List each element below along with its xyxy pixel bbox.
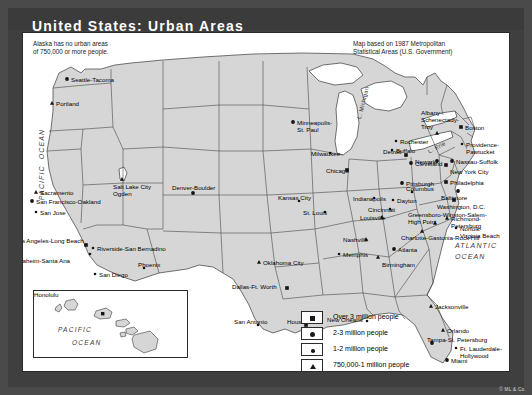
city-marker bbox=[35, 211, 38, 214]
honolulu-marker bbox=[101, 312, 104, 315]
city-marker bbox=[392, 247, 396, 251]
city-marker bbox=[285, 286, 289, 290]
city-marker bbox=[291, 120, 295, 124]
city-label: Memphis bbox=[343, 251, 368, 258]
legend-row: 1-2 million people bbox=[301, 342, 451, 357]
city-marker bbox=[34, 190, 38, 194]
city-marker bbox=[50, 101, 54, 105]
square-icon bbox=[302, 312, 324, 325]
city-label: Dayton bbox=[397, 197, 417, 204]
city-marker bbox=[92, 247, 95, 250]
label-inset-ocean: OCEAN bbox=[72, 339, 101, 346]
city-label: St. Louis bbox=[303, 209, 327, 216]
city-label: Boston bbox=[465, 124, 484, 131]
city-marker bbox=[409, 161, 413, 165]
city-marker bbox=[191, 191, 195, 195]
city-label: Sacramento bbox=[40, 189, 73, 196]
legend: Over 3 million people2-3 million people1… bbox=[301, 310, 451, 372]
map-canvas: Alaska has no urban areas of 750,000 or … bbox=[22, 32, 510, 372]
city-label: Denver-Boulder bbox=[172, 184, 215, 191]
city-label: Providence- Pawtucket bbox=[466, 141, 499, 155]
molokai bbox=[116, 319, 130, 327]
small-dot-icon bbox=[302, 344, 324, 357]
large-dot-icon bbox=[302, 328, 324, 341]
city-marker bbox=[444, 180, 448, 184]
city-label: Phoenix bbox=[138, 261, 160, 268]
city-marker bbox=[461, 143, 464, 146]
city-marker bbox=[84, 243, 88, 247]
city-label: Kansas City bbox=[278, 194, 311, 201]
legend-swatch-large-dot bbox=[301, 327, 323, 340]
credit-text: © ML & Co. bbox=[499, 387, 526, 392]
city-label: Dallas-Ft. Worth bbox=[232, 283, 277, 290]
city-label: Anaheim-Santa Ana bbox=[22, 257, 70, 264]
hawaii-inset-graphic bbox=[34, 291, 187, 357]
city-label: Chicago bbox=[326, 167, 349, 174]
city-label: Seattle-Tacoma bbox=[71, 76, 114, 83]
city-marker bbox=[459, 125, 463, 129]
legend-label: Over 3 million people bbox=[333, 313, 399, 320]
city-marker bbox=[94, 273, 97, 276]
city-label: Portland bbox=[56, 100, 79, 107]
city-label: San Jose bbox=[40, 209, 66, 216]
legend-label: 2-3 million people bbox=[333, 329, 388, 336]
title-banner: United States: Urban Areas bbox=[8, 8, 524, 30]
city-label: Birmingham bbox=[382, 261, 415, 268]
city-marker bbox=[450, 159, 454, 163]
legend-label: 1-2 million people bbox=[333, 345, 388, 352]
city-label: Albany- Schenectady- Troy bbox=[421, 109, 459, 130]
legend-row: 2-3 million people bbox=[301, 326, 451, 341]
city-marker bbox=[392, 199, 395, 202]
city-label: Jacksonville bbox=[435, 303, 468, 310]
legend-row: Over 3 million people bbox=[301, 310, 451, 325]
city-marker bbox=[376, 255, 380, 259]
city-label: Los Angeles-Long Beach bbox=[22, 237, 84, 244]
city-marker bbox=[120, 177, 124, 181]
city-marker bbox=[400, 181, 404, 185]
lanai bbox=[120, 332, 126, 337]
legend-swatch-small-dot bbox=[301, 343, 323, 356]
city-label: Minneapolis- St. Paul bbox=[297, 119, 332, 133]
city-label: San Antonio bbox=[234, 318, 267, 325]
city-marker bbox=[338, 253, 341, 256]
label-inset-pacific: PACIFIC bbox=[58, 326, 92, 333]
legend-swatch-square bbox=[301, 311, 323, 324]
city-marker bbox=[456, 189, 460, 193]
city-label: Oklahoma City bbox=[263, 259, 304, 266]
city-marker bbox=[30, 199, 34, 203]
city-marker bbox=[420, 229, 424, 233]
city-marker bbox=[429, 304, 433, 308]
city-label: Cincinnati bbox=[368, 206, 395, 213]
city-label: Washington, D.C. bbox=[437, 203, 485, 210]
city-label: Riverside-San Bernadino bbox=[97, 245, 166, 252]
legend-swatch-triangle bbox=[301, 359, 323, 372]
city-label: Salt Lake City Ogden bbox=[113, 183, 151, 197]
city-marker bbox=[395, 140, 398, 143]
city-marker bbox=[89, 253, 92, 256]
city-label: Norfolk- Virginia Beach bbox=[460, 225, 500, 239]
city-label: Nashville bbox=[343, 236, 368, 243]
city-label: San Diego bbox=[99, 271, 128, 278]
map-page: United States: Urban Areas bbox=[0, 0, 532, 395]
legend-row: 750,000-1 million people bbox=[301, 358, 451, 372]
kauai bbox=[64, 299, 78, 310]
city-label: Miami bbox=[451, 357, 468, 364]
city-label: Newark bbox=[415, 158, 436, 165]
city-label: Nassau-Suffolk bbox=[456, 158, 498, 165]
city-label: New York City bbox=[450, 168, 489, 175]
city-label: Indianapolis bbox=[353, 195, 386, 202]
city-label: Baltimore bbox=[441, 194, 467, 201]
maui bbox=[126, 327, 138, 335]
legend-label: 750,000-1 million people bbox=[333, 361, 409, 368]
hawaii-island bbox=[132, 331, 158, 353]
city-marker bbox=[65, 77, 69, 81]
hawaii-inset: PACIFIC OCEAN Honolulu bbox=[33, 290, 188, 358]
city-label: Rochester bbox=[400, 138, 428, 145]
city-label: Milwaukee bbox=[311, 150, 340, 157]
niihau bbox=[55, 304, 62, 312]
city-marker bbox=[455, 347, 458, 350]
city-marker bbox=[444, 163, 448, 167]
triangle-icon bbox=[302, 360, 324, 372]
city-label: Atlanta bbox=[398, 246, 417, 253]
city-label: Philadelphia bbox=[450, 179, 484, 186]
